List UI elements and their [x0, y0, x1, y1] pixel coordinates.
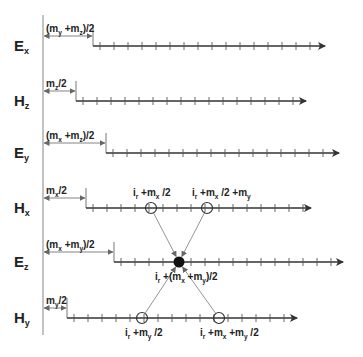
- offset-label-hy: my/2: [46, 295, 67, 309]
- axis-row-ex: Ex(my +mz)/2: [14, 23, 325, 56]
- axis-label-ey: Ey: [14, 144, 29, 163]
- offset-label-ey: (mx +mz)/2: [46, 130, 95, 143]
- annotation-hy-left: ir +my /2: [125, 327, 163, 341]
- sample-points: [137, 203, 225, 324]
- annotation-hx-right: ir +mx /2 +my: [192, 187, 251, 201]
- annotation-hx-left: ir +mx /2: [133, 187, 171, 200]
- axis-row-ey: Ey(mx +mz)/2: [14, 130, 339, 163]
- filled-center-point: [174, 257, 185, 268]
- axis-row-hz: Hzmz/2: [14, 78, 306, 111]
- interpolation-link-hx-right: [182, 213, 204, 256]
- annotation-ez-center: ir +(mx +my)/2: [155, 271, 218, 285]
- offset-label-ez: (mx +my)/2: [46, 239, 95, 253]
- offset-label-hz: mz/2: [46, 78, 67, 91]
- axis-label-ex: Ex: [14, 37, 29, 56]
- offset-label-ex: (my +mz)/2: [46, 23, 95, 37]
- interpolation-link-hx-left: [154, 213, 176, 256]
- axis-row-hy: Hymy/2: [14, 295, 297, 328]
- axis-label-hy: Hy: [14, 309, 30, 328]
- offset-label-hx: mx/2: [46, 185, 67, 198]
- staggered-grid-diagram: Ex(my +mz)/2Hzmz/2Ey(mx +mz)/2Hxmx/2Ez(m…: [0, 0, 363, 357]
- axis-label-ez: Ez: [14, 253, 29, 272]
- annotation-hy-right: ir +mx +my /2: [200, 327, 259, 341]
- axis-label-hx: Hx: [14, 199, 30, 218]
- axis-label-hz: Hz: [14, 92, 30, 111]
